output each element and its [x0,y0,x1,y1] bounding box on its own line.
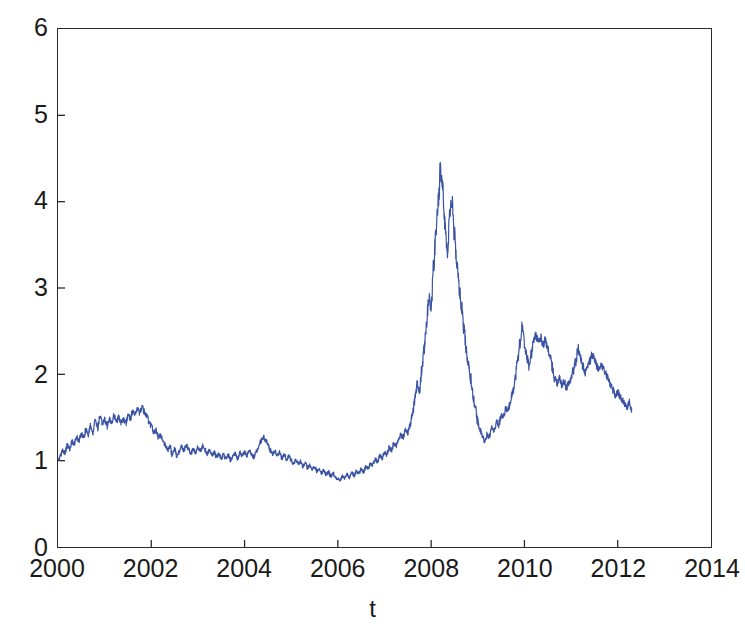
y-tick-label: 2 [4,362,48,387]
y-tick-label: 5 [4,102,48,127]
x-axis-title: t [0,597,745,621]
plot-canvas [58,29,711,547]
data-line-1 [58,163,632,481]
x-tick-label: 2014 [652,556,745,581]
y-tick-label: 3 [4,275,48,300]
y-tick-label: 1 [4,448,48,473]
chart-figure: 0123456 20002002200420062008201020122014… [0,0,745,639]
tick-marks [58,115,618,547]
series-group [58,163,632,481]
y-axis-tick-labels: 0123456 [0,0,48,639]
y-tick-label: 4 [4,188,48,213]
plot-area [57,28,712,548]
y-tick-label: 6 [4,15,48,40]
x-axis-tick-labels: 20002002200420062008201020122014 [0,556,745,590]
